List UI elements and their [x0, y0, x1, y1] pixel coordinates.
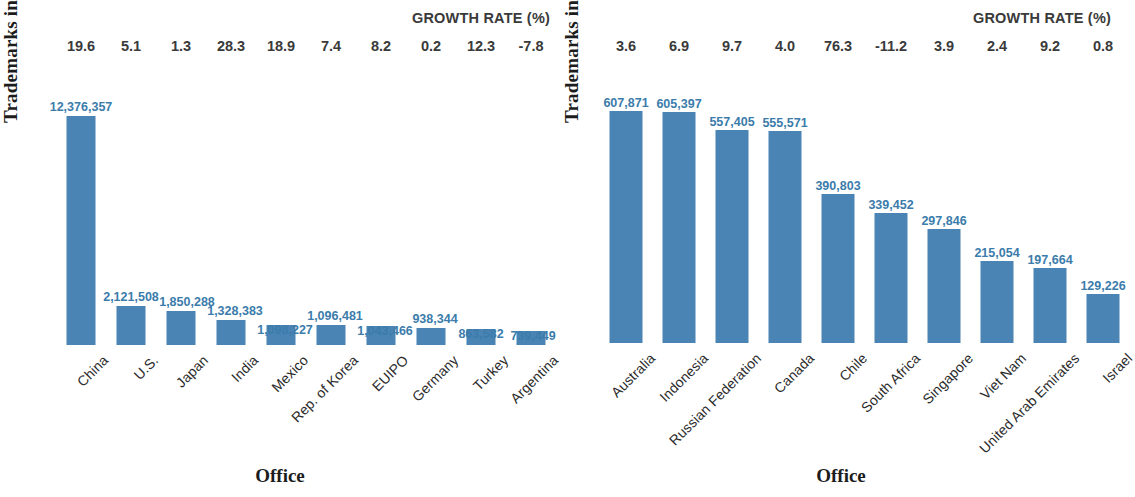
x-axis-category-label: Viet Nam — [976, 350, 1028, 402]
bar-value-label: 197,664 — [1027, 253, 1072, 267]
bar — [875, 213, 908, 343]
x-axis-category-label: Singapore — [919, 350, 976, 407]
bar-value-label: 739,449 — [510, 329, 555, 343]
bar-value-label: 607,871 — [603, 96, 648, 110]
bar — [716, 130, 749, 343]
bar — [1034, 268, 1067, 343]
bar-value-label: 1,096,481 — [307, 309, 363, 323]
x-axis-category-label: Indonesia — [656, 350, 711, 405]
x-axis-category-label: U.S. — [130, 352, 161, 383]
x-axis-category-label: India — [228, 352, 261, 385]
x-axis-category-label: Japan — [172, 352, 211, 391]
bar — [167, 311, 196, 345]
x-axis-category-label: Russian Federation — [665, 350, 763, 448]
bar — [1087, 294, 1120, 343]
x-axis-title-left: Office — [0, 465, 560, 487]
bar — [769, 131, 802, 343]
bar-value-label: 863,582 — [458, 327, 503, 341]
x-axis-title-right: Office — [561, 465, 1121, 487]
bar-value-label: 2,121,508 — [103, 290, 159, 304]
bar — [217, 320, 246, 345]
bar — [67, 116, 96, 345]
bar-value-label: 12,376,357 — [50, 100, 113, 114]
x-axis-category-label: Turkey — [469, 352, 511, 394]
bar — [822, 194, 855, 343]
bar-value-label: 1,328,383 — [207, 304, 263, 318]
bar — [317, 325, 346, 345]
x-axis-category-label: Canada — [770, 350, 816, 396]
bar-value-label: 605,397 — [656, 97, 701, 111]
bar-value-label: 938,344 — [412, 312, 457, 326]
x-axis-category-label: United Arab Emirates — [976, 350, 1082, 456]
bar — [117, 306, 146, 345]
x-axis-category-label: Argentina — [506, 352, 560, 406]
bar-value-label: 129,226 — [1080, 279, 1125, 293]
bar-value-label: 215,054 — [974, 246, 1019, 260]
plot-area-left: 12,376,357China2,121,508U.S.1,850,288Jap… — [0, 0, 560, 497]
x-axis-category-label: China — [73, 352, 111, 390]
bar-value-label: 297,846 — [921, 214, 966, 228]
bar — [981, 261, 1014, 343]
bar — [663, 112, 696, 343]
x-axis-category-label: Germany — [408, 352, 461, 405]
x-axis-category-label: EUIPO — [368, 352, 410, 394]
bar-value-label: 1,098,227 — [257, 323, 313, 337]
bar-value-label: 557,405 — [709, 115, 754, 129]
bar — [610, 111, 643, 343]
x-axis-category-label: Israel — [1099, 350, 1135, 386]
x-axis-category-label: Chile — [836, 350, 870, 384]
bar-value-label: 555,571 — [762, 116, 807, 130]
bar — [417, 328, 446, 345]
x-axis-category-label: Australia — [607, 350, 657, 400]
x-axis-category-label: Mexico — [268, 352, 311, 395]
chart-panel-top-offices: GROWTH RATE (%) 19.65.11.328.318.97.48.2… — [0, 0, 560, 497]
chart-panel-next-offices: GROWTH RATE (%) 3.66.99.74.076.3-11.23.9… — [561, 0, 1121, 497]
bar-value-label: 1,043,466 — [357, 324, 413, 338]
bar-value-label: 339,452 — [868, 198, 913, 212]
bar-value-label: 390,803 — [815, 179, 860, 193]
plot-area-right: 607,871Australia605,397Indonesia557,405R… — [561, 0, 1121, 497]
bar — [928, 229, 961, 343]
